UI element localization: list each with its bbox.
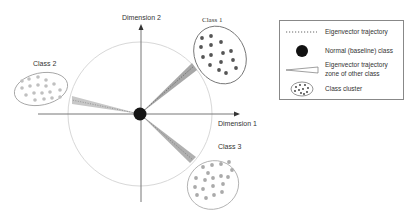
legend-label-trajectory-zone-line2: zone of other class [325,70,380,78]
wedge-icon [286,67,318,73]
class2-label: Class 2 [33,60,56,67]
cluster-icon [291,82,313,96]
legend-label-trajectory-zone-line1: Eigenvector trajectory [325,61,388,69]
normal-baseline-class-dot [134,108,147,121]
legend: Eigenvector trajectory Normal (baseline)… [279,20,404,100]
class2-trajectory-zone [72,96,140,114]
class1-label: Class 1 [202,16,222,24]
x-axis-arrow-icon [234,112,240,117]
y-axis-label: Dimension 2 [122,14,161,21]
x-axis-label: Dimension 1 [218,120,257,127]
legend-label-class-cluster: Class cluster [325,85,362,93]
legend-label-eigenvector-trajectory: Eigenvector trajectory [325,28,388,36]
class3-label: Class 3 [218,143,241,150]
class1-cluster [183,17,256,94]
y-axis-arrow-icon [139,24,144,30]
black-circle-icon [296,45,308,57]
legend-label-normal-class: Normal (baseline) class [325,47,393,55]
class2-cluster [11,68,70,111]
